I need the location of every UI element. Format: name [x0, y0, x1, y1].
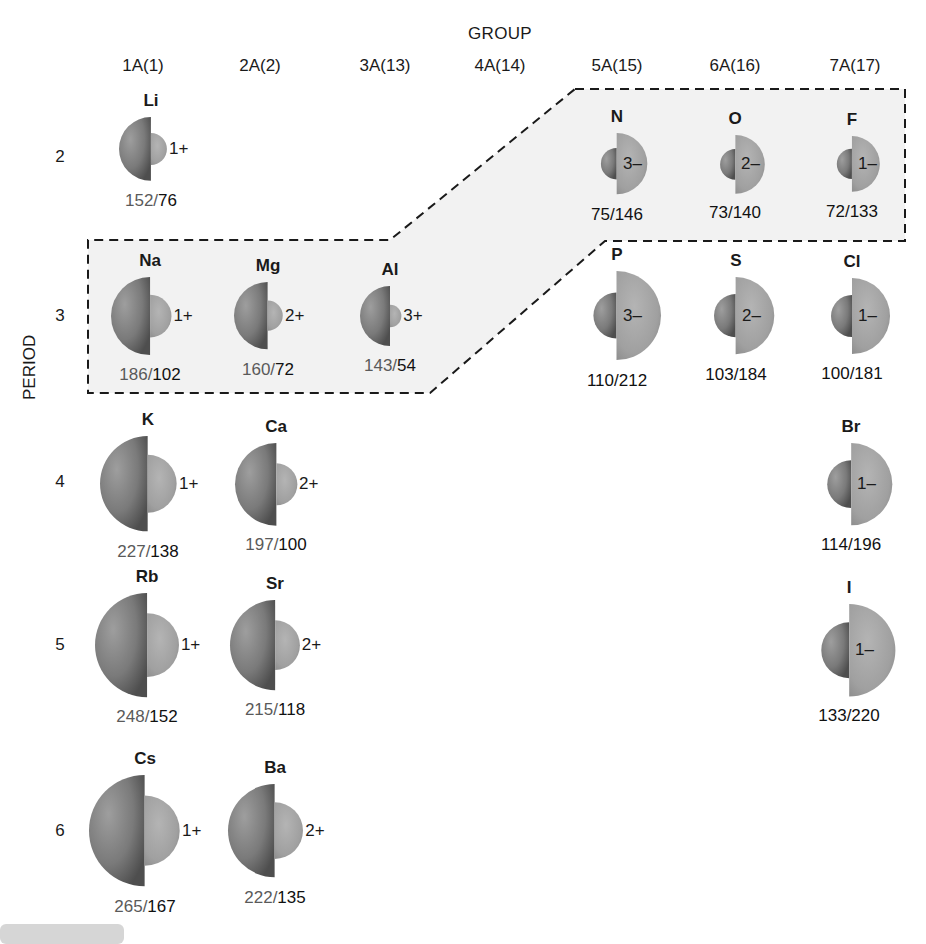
atomic-radius-value: 133 [818, 706, 846, 725]
period-axis-title: PERIOD [20, 335, 40, 400]
radii-label: 197/100 [245, 535, 306, 555]
period-number: 2 [55, 147, 64, 167]
radii-label: 133/220 [818, 706, 879, 726]
atomic-radius-value: 72 [826, 202, 845, 221]
radii-label: 100/181 [821, 364, 882, 384]
ionic-radius-value: 220 [851, 706, 879, 725]
atomic-radius-value: 248 [116, 707, 144, 726]
group-header: 2A(2) [239, 56, 281, 76]
group-header: 5A(15) [591, 56, 642, 76]
atomic-radius-value: 152 [125, 191, 153, 210]
ionic-radius-value: 100 [278, 535, 306, 554]
ion-charge: 1– [858, 306, 877, 326]
radii-label: 72/133 [826, 202, 878, 222]
group-axis-title: GROUP [468, 24, 532, 44]
element-symbol: Ca [265, 417, 287, 437]
corner-tab [0, 924, 124, 944]
element-symbol: N [611, 107, 623, 127]
group-header: 1A(1) [122, 56, 164, 76]
element-symbol: Sr [266, 574, 284, 594]
atomic-radius-value: 103 [705, 365, 733, 384]
atom-ion-sphere-icon [570, 269, 663, 362]
ion-charge: 1+ [169, 139, 188, 159]
radii-label: 114/196 [821, 535, 881, 555]
atomic-radius-value: 143 [364, 356, 392, 375]
radii-label: 103/184 [705, 365, 766, 385]
ion-charge: 2+ [305, 821, 324, 841]
element-symbol: Na [139, 251, 161, 271]
radii-label: 215/118 [245, 700, 305, 720]
ion-charge: 3+ [403, 306, 422, 326]
ionic-radius-value: 118 [278, 700, 305, 719]
radii-label: 73/140 [709, 203, 761, 223]
element-symbol: K [142, 410, 154, 430]
period-number: 4 [55, 472, 64, 492]
ionic-radius-value: 167 [147, 897, 175, 916]
ion-charge: 1+ [181, 635, 200, 655]
atomic-radius-value: 110 [587, 371, 614, 390]
group-header: 4A(14) [474, 56, 525, 76]
atomic-radius-value: 100 [821, 364, 849, 383]
ionic-radius-value: 212 [619, 371, 647, 390]
ion-charge: 2+ [285, 306, 304, 326]
element-symbol: F [847, 110, 857, 130]
element-symbol: Br [842, 417, 861, 437]
element-symbol: Cl [844, 252, 861, 272]
atomic-radius-value: 265 [114, 897, 142, 916]
group-header: 3A(13) [359, 56, 410, 76]
radii-label: 222/135 [244, 888, 305, 908]
element-symbol: Rb [136, 567, 159, 587]
ion-charge: 2– [742, 306, 761, 326]
atomic-radius-value: 227 [117, 542, 145, 561]
ion-charge: 1+ [173, 306, 192, 326]
ionic-radius-value: 54 [397, 356, 416, 375]
ionic-radius-value: 146 [615, 205, 643, 224]
atomic-radius-value: 75 [591, 205, 610, 224]
ion-charge: 2– [741, 154, 760, 174]
group-header: 7A(17) [829, 56, 880, 76]
ion-charge: 1+ [182, 821, 201, 841]
atom-ion-sphere-icon [808, 441, 894, 527]
radii-label: 160/72 [242, 360, 294, 380]
period-number: 5 [55, 635, 64, 655]
ion-charge: 1– [857, 474, 876, 494]
group-header: 6A(16) [709, 56, 760, 76]
atomic-radius-value: 160 [242, 360, 270, 379]
radii-label: 248/152 [116, 707, 177, 727]
atomic-radius-value: 197 [245, 535, 273, 554]
ionic-radius-value: 102 [152, 365, 180, 384]
atomic-radius-value: 114 [821, 535, 848, 554]
atom-ion-sphere-icon [801, 602, 897, 698]
element-symbol: Li [143, 91, 158, 111]
ionic-radius-value: 184 [738, 365, 766, 384]
element-symbol: Cs [134, 749, 156, 769]
ionic-radius-value: 76 [158, 191, 177, 210]
radii-label: 152/76 [125, 191, 177, 211]
element-symbol: P [611, 245, 622, 265]
ionic-radius-value: 181 [854, 364, 882, 383]
element-symbol: Al [382, 260, 399, 280]
radii-label: 227/138 [117, 542, 178, 562]
ion-charge: 3– [623, 306, 642, 326]
element-symbol: S [730, 251, 741, 271]
element-symbol: O [728, 109, 741, 129]
element-symbol: I [847, 578, 852, 598]
atomic-radius-value: 73 [709, 203, 728, 222]
atomic-radius-value: 215 [245, 700, 273, 719]
ionic-radius-value: 152 [149, 707, 177, 726]
ion-charge: 3– [623, 154, 642, 174]
ion-charge: 1+ [179, 474, 198, 494]
element-symbol: Mg [256, 256, 281, 276]
atomic-radius-value: 186 [119, 365, 147, 384]
ionic-radius-value: 72 [275, 360, 294, 379]
atom-ion-sphere-icon [812, 276, 892, 356]
ion-charge: 1– [858, 154, 877, 174]
radii-label: 75/146 [591, 205, 643, 225]
ionic-radius-value: 135 [277, 888, 305, 907]
element-symbol: Ba [264, 758, 286, 778]
atom-ion-sphere-icon [695, 275, 776, 356]
ionic-radius-value: 138 [150, 542, 178, 561]
radii-label: 143/54 [364, 356, 416, 376]
period-number: 6 [55, 821, 64, 841]
period-number: 3 [55, 306, 64, 326]
